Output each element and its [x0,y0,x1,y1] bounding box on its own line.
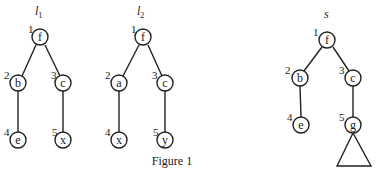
tree-s: s f1 b2 c3 e4 g5 [285,7,371,166]
svg-text:c: c [350,71,355,85]
svg-text:f: f [325,33,329,47]
subtree-triangle [337,133,371,166]
svg-text:3: 3 [51,69,57,81]
tree-node: f1 [313,26,335,48]
edge [300,86,301,117]
tree-node: c3 [51,69,71,91]
tree-node: c3 [152,69,173,91]
svg-text:2: 2 [105,69,111,81]
tree-title-l1: l1 [35,4,42,20]
tree-node: b2 [285,64,308,86]
tree-node: f1 [28,23,48,45]
svg-text:4: 4 [287,111,293,123]
svg-text:b: b [297,71,303,85]
svg-text:e: e [15,133,20,147]
tree-node: y5 [153,126,173,148]
svg-text:y: y [162,133,168,147]
tree-node: e4 [4,126,26,148]
tree-node: x4 [105,126,127,148]
svg-text:5: 5 [153,126,159,138]
svg-text:1: 1 [131,23,137,35]
svg-text:c: c [162,76,167,90]
tree-node: e4 [287,111,309,133]
tree-title-l2: l2 [137,4,144,20]
svg-text:1: 1 [313,26,319,38]
edge [123,45,139,76]
svg-text:f: f [38,30,42,44]
svg-text:4: 4 [105,126,111,138]
svg-text:4: 4 [4,126,10,138]
svg-text:f: f [141,30,145,44]
svg-text:e: e [298,118,303,132]
edge [22,45,36,76]
svg-text:c: c [60,76,65,90]
svg-text:a: a [116,76,122,90]
tree-node: f1 [131,23,151,45]
figure-caption: Figure 1 [152,154,192,168]
svg-text:x: x [60,133,66,147]
svg-text:5: 5 [52,126,58,138]
tree-node: a2 [105,69,127,91]
tree-node: c3 [339,64,361,86]
svg-text:2: 2 [285,64,291,76]
svg-text:3: 3 [152,69,158,81]
tree-l1: l1 f1 b2 c3 e4 x5 [4,4,71,148]
svg-text:g: g [350,118,356,132]
tree-node: b2 [4,69,26,91]
figure-canvas: l1 f1 b2 c3 e4 x5 l2 f1 a2 c3 x4 y5 s f1… [0,0,376,175]
svg-text:5: 5 [339,111,345,123]
tree-node: g5 [339,111,361,133]
svg-text:b: b [15,76,21,90]
edge [304,47,322,71]
svg-text:1: 1 [28,23,34,35]
tree-node: x5 [52,126,71,148]
tree-l2: l2 f1 a2 c3 x4 y5 [105,4,173,148]
svg-text:x: x [116,133,122,147]
svg-text:3: 3 [339,64,345,76]
svg-text:2: 2 [4,69,10,81]
tree-title-s: s [324,7,329,21]
